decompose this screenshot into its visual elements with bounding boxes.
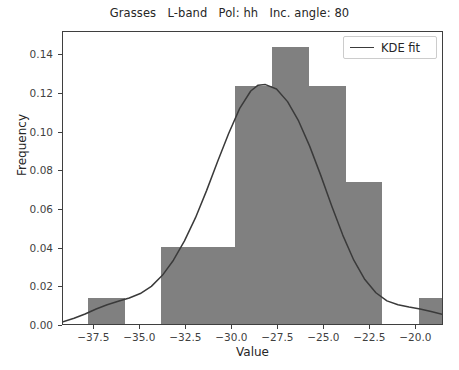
y-tick-mark bbox=[58, 209, 62, 210]
x-tick-mark bbox=[185, 325, 186, 329]
x-tick-mark bbox=[415, 325, 416, 329]
x-tick-mark bbox=[231, 325, 232, 329]
y-tick-label: 0.14 bbox=[0, 48, 53, 60]
plot-area bbox=[63, 32, 442, 324]
y-axis-label: Frequency bbox=[15, 85, 29, 205]
kde-fit-path bbox=[63, 85, 442, 322]
plot-axes bbox=[62, 31, 443, 325]
x-axis-label: Value bbox=[62, 345, 443, 359]
legend-label-kde-fit: KDE fit bbox=[381, 41, 420, 55]
y-tick-mark bbox=[58, 248, 62, 249]
chart-title: Grasses L-band Pol: hh Inc. angle: 80 bbox=[0, 6, 459, 20]
x-tick-mark bbox=[93, 325, 94, 329]
legend: KDE fit bbox=[343, 36, 437, 59]
x-tick-mark bbox=[323, 325, 324, 329]
x-tick-mark bbox=[369, 325, 370, 329]
y-tick-label: 0.00 bbox=[0, 319, 53, 331]
y-tick-mark bbox=[58, 325, 62, 326]
legend-line-swatch bbox=[350, 47, 374, 48]
y-tick-mark bbox=[58, 93, 62, 94]
y-tick-label: 0.04 bbox=[0, 242, 53, 254]
y-tick-mark bbox=[58, 54, 62, 55]
kde-fit-line bbox=[63, 32, 442, 324]
chart-figure: Grasses L-band Pol: hh Inc. angle: 80 −3… bbox=[0, 0, 459, 370]
y-tick-mark bbox=[58, 132, 62, 133]
y-tick-label: 0.02 bbox=[0, 280, 53, 292]
y-tick-mark bbox=[58, 286, 62, 287]
x-tick-mark bbox=[139, 325, 140, 329]
x-tick-label: −20.0 bbox=[385, 331, 445, 343]
x-tick-mark bbox=[277, 325, 278, 329]
y-tick-mark bbox=[58, 170, 62, 171]
